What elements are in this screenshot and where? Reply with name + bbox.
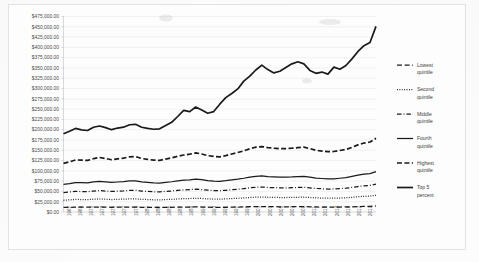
y-tick-label: $150,000.00 [32, 148, 59, 153]
y-tick-label: $450,000.00 [32, 25, 59, 30]
legend-label: quintile [417, 143, 433, 149]
chart-legend: LowestquintileSecondquintileMiddlequinti… [397, 62, 435, 198]
y-tick-label: $300,000.00 [32, 86, 59, 91]
legend-label: quintile [417, 118, 433, 124]
y-tick-label: $400,000.00 [32, 45, 59, 50]
gridlines-group [64, 17, 377, 202]
scan-smudge [159, 15, 173, 22]
line-chart-svg: $475,000.00$450,000.00$425,000.00$400,00… [0, 0, 479, 262]
y-tick-label: $425,000.00 [32, 35, 59, 40]
scan-smudge [319, 19, 341, 25]
y-axis-tick-labels: $475,000.00$450,000.00$425,000.00$400,00… [32, 14, 59, 215]
y-tick-label: $475,000.00 [32, 14, 59, 19]
series-line [64, 172, 377, 185]
y-tick-label: $325,000.00 [32, 76, 59, 81]
y-tick-label: $350,000.00 [32, 66, 59, 71]
chart-canvas: $475,000.00$450,000.00$425,000.00$400,00… [0, 0, 479, 262]
y-tick-label: $50,000.00 [35, 189, 60, 194]
legend-label: Top 5 [417, 184, 429, 190]
y-tick-label: $175,000.00 [32, 138, 59, 143]
y-tick-label: $250,000.00 [32, 107, 59, 112]
legend-label: Second [417, 86, 434, 92]
legend-label: Highest [417, 160, 435, 166]
legend-label: quintile [417, 69, 433, 75]
legend-label: quintile [417, 94, 433, 100]
y-tick-label: $25,000.00 [35, 200, 60, 205]
legend-label: Middle [417, 111, 432, 117]
y-tick-label: $375,000.00 [32, 55, 59, 60]
scan-smudge [302, 79, 312, 84]
y-tick-label: $225,000.00 [32, 117, 59, 122]
y-tick-label: $200,000.00 [32, 127, 59, 132]
y-tick-label: $75,000.00 [35, 179, 60, 184]
series-line [64, 26, 377, 133]
y-tick-label: $125,000.00 [32, 158, 59, 163]
series-line [64, 138, 377, 163]
y-tick-label: $275,000.00 [32, 97, 59, 102]
legend-label: Fourth [417, 135, 432, 141]
legend-label: quintile [417, 167, 433, 173]
legend-label: percent [417, 192, 434, 198]
data-series-group [64, 26, 377, 207]
legend-label: Lowest [417, 62, 433, 68]
y-tick-label: $100,000.00 [32, 169, 59, 174]
y-tick-label: $0.00 [47, 210, 60, 215]
series-line [64, 195, 377, 200]
